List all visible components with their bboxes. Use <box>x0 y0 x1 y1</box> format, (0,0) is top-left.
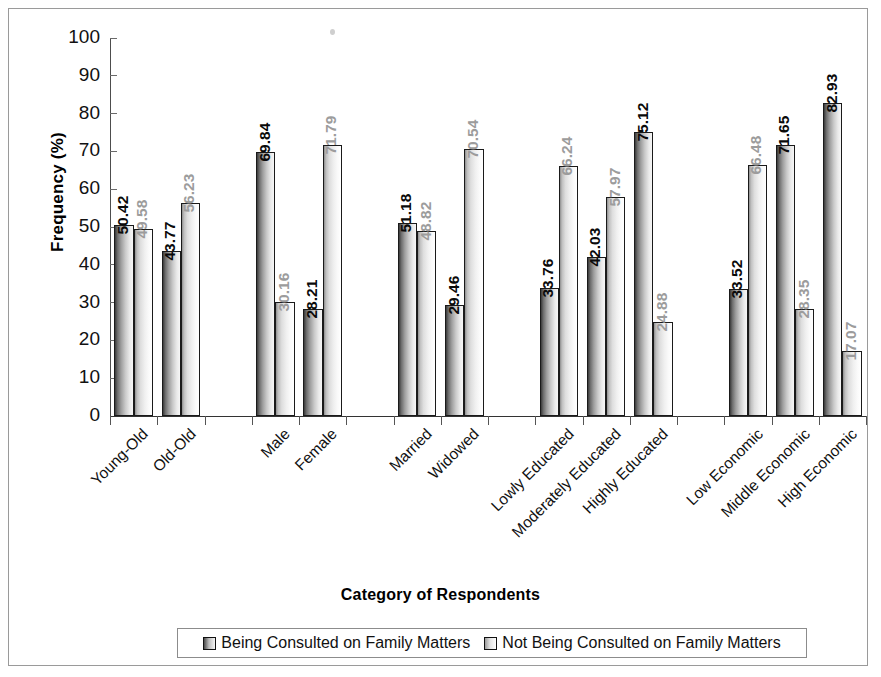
y-tick-label-30: 30 <box>52 291 100 313</box>
x-axis-title: Category of Respondents <box>0 586 881 604</box>
bar-series-1-lowly-educated <box>559 166 578 416</box>
x-tick-10 <box>583 416 584 425</box>
bar-series-1-young-old <box>134 229 153 416</box>
bar-value-label-series-1-middle-economic: 28.35 <box>795 280 811 319</box>
bar-series-0-middle-economic <box>776 145 795 416</box>
bar-value-label-series-0-married: 51.18 <box>398 193 414 232</box>
bar-value-label-series-1-old-old: 56.23 <box>181 174 197 213</box>
bar-value-label-series-1-female: 71.79 <box>323 115 339 154</box>
bar-series-0-married <box>398 223 417 416</box>
bar-series-1-widowed <box>464 149 483 416</box>
x-tick-16 <box>866 416 867 425</box>
bar-value-label-series-0-highly-educated: 75.12 <box>634 103 650 142</box>
bar-value-label-series-0-middle-economic: 71.65 <box>776 116 792 155</box>
x-tick-14 <box>772 416 773 425</box>
y-tick-label-80: 80 <box>52 102 100 124</box>
x-tick-11 <box>630 416 631 425</box>
bar-value-label-series-1-widowed: 70.54 <box>464 120 480 159</box>
bar-value-label-series-0-lowly-educated: 33.76 <box>540 259 556 298</box>
bar-series-1-old-old <box>181 203 200 416</box>
legend-label-series-0: Being Consulted on Family Matters <box>221 634 470 652</box>
bar-value-label-series-0-widowed: 29.46 <box>445 275 461 314</box>
plot-area: 50.4249.5843.7756.2369.8430.1628.2171.79… <box>110 38 866 416</box>
scan-artifact-speck <box>330 29 335 35</box>
x-tick-2 <box>205 416 206 425</box>
y-tick-label-10: 10 <box>52 366 100 388</box>
legend-item-series-1[interactable]: Not Being Consulted on Family Matters <box>484 634 780 652</box>
bar-value-label-series-0-young-old: 50.42 <box>114 196 130 235</box>
bar-series-1-low-economic <box>748 165 767 416</box>
bar-series-1-middle-economic <box>795 309 814 416</box>
bar-series-0-lowly-educated <box>540 288 559 416</box>
bar-series-1-married <box>417 231 436 416</box>
x-tick-0 <box>110 416 111 425</box>
x-tick-13 <box>724 416 725 425</box>
x-tick-9 <box>535 416 536 425</box>
x-tick-3 <box>252 416 253 425</box>
bar-series-0-low-economic <box>729 289 748 416</box>
y-tick-label-50: 50 <box>52 215 100 237</box>
bar-value-label-series-0-high-economic: 82.93 <box>823 73 839 112</box>
x-tick-1 <box>157 416 158 425</box>
bar-value-label-series-1-lowly-educated: 66.24 <box>559 136 575 175</box>
legend-label-series-1: Not Being Consulted on Family Matters <box>502 634 780 652</box>
bar-value-label-series-1-low-economic: 66.48 <box>748 135 764 174</box>
bar-value-label-series-0-male: 69.84 <box>256 123 272 162</box>
x-tick-12 <box>677 416 678 425</box>
bar-value-label-series-1-high-economic: 17.07 <box>842 322 858 361</box>
bar-series-0-widowed <box>445 305 464 416</box>
chart-page: Frequency (%) 0102030405060708090100 50.… <box>0 0 881 677</box>
bar-series-0-female <box>303 309 322 416</box>
bar-series-1-high-economic <box>842 351 861 416</box>
y-tick-label-0: 0 <box>52 404 100 426</box>
bar-series-0-old-old <box>162 251 181 416</box>
legend-item-series-0[interactable]: Being Consulted on Family Matters <box>203 634 470 652</box>
x-tick-15 <box>819 416 820 425</box>
bar-value-label-series-0-moderately-educated: 42.03 <box>587 228 603 267</box>
legend-swatch-icon-series-0 <box>203 637 216 650</box>
y-tick-label-20: 20 <box>52 328 100 350</box>
bar-series-0-male <box>256 152 275 416</box>
x-tick-6 <box>394 416 395 425</box>
bar-series-1-moderately-educated <box>606 197 625 416</box>
bar-value-label-series-1-married: 48.82 <box>417 202 433 241</box>
bar-value-label-series-1-male: 30.16 <box>275 273 291 312</box>
bar-series-1-highly-educated <box>653 322 672 416</box>
bar-series-1-female <box>323 145 342 416</box>
y-tick-label-40: 40 <box>52 253 100 275</box>
y-tick-label-60: 60 <box>52 177 100 199</box>
legend-swatch-icon-series-1 <box>484 637 497 650</box>
x-tick-8 <box>488 416 489 425</box>
bar-value-label-series-0-old-old: 43.77 <box>162 221 178 260</box>
bar-series-0-high-economic <box>823 103 842 416</box>
bar-series-0-young-old <box>114 225 133 416</box>
y-tick-label-100: 100 <box>52 26 100 48</box>
x-tick-5 <box>346 416 347 425</box>
y-tick-label-70: 70 <box>52 139 100 161</box>
bar-series-0-highly-educated <box>634 132 653 416</box>
chart-legend: Being Consulted on Family Matters Not Be… <box>177 628 807 658</box>
x-tick-7 <box>441 416 442 425</box>
bar-value-label-series-1-highly-educated: 24.88 <box>653 293 669 332</box>
y-tick-label-90: 90 <box>52 64 100 86</box>
x-tick-4 <box>299 416 300 425</box>
bar-series-1-male <box>275 302 294 416</box>
bar-value-label-series-0-low-economic: 33.52 <box>729 260 745 299</box>
bar-value-label-series-1-moderately-educated: 57.97 <box>606 168 622 207</box>
bar-value-label-series-1-young-old: 49.58 <box>134 199 150 238</box>
bar-series-0-moderately-educated <box>587 257 606 416</box>
bar-value-label-series-0-female: 28.21 <box>303 280 319 319</box>
